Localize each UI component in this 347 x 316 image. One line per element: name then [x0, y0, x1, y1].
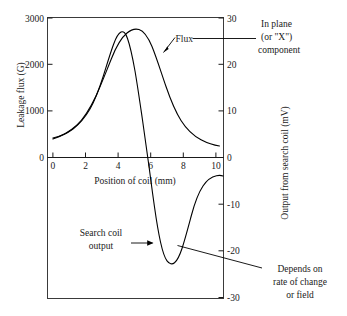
- figure-leakage-flux-search-coil: 3000 2000 1000 0 30 20 10 0 -10 -20 -30: [0, 0, 347, 316]
- chart-canvas: 3000 2000 1000 0 30 20 10 0 -10 -20 -30: [0, 0, 347, 316]
- flux-curve: [53, 29, 220, 146]
- x-axis-ticks: [53, 153, 216, 158]
- in-plane-line-2: (or "X"): [261, 32, 292, 43]
- left-axis-tick-labels: 3000 2000 1000 0: [25, 14, 44, 164]
- x-tick-10: 10: [211, 161, 221, 171]
- right-axis-ticks: [219, 18, 224, 298]
- x-tick-8: 8: [181, 161, 186, 171]
- right-tick-20: 20: [227, 60, 237, 70]
- depends-annotation: Depends on rate of change or field: [273, 264, 327, 300]
- right-axis-title: Output from search coil (mV): [280, 106, 291, 219]
- search-coil-line-1: Search coil: [80, 228, 123, 238]
- left-tick-0: 0: [39, 153, 44, 163]
- right-tick-10: 10: [227, 106, 237, 116]
- depends-line-1: Depends on: [277, 264, 322, 274]
- right-tick-minus20: -20: [227, 246, 240, 256]
- left-tick-1000: 1000: [25, 106, 44, 116]
- right-tick-minus10: -10: [227, 200, 240, 210]
- right-tick-0: 0: [227, 153, 232, 163]
- left-axis-title: Leakage flux (G): [16, 62, 27, 127]
- flux-annotation-label: Flux: [176, 34, 194, 44]
- left-tick-3000: 3000: [25, 14, 44, 24]
- x-tick-2: 2: [83, 161, 88, 171]
- search-coil-curve-positive: [53, 32, 149, 165]
- depends-line-2: rate of change: [273, 277, 327, 287]
- x-tick-0: 0: [51, 161, 56, 171]
- right-tick-30: 30: [227, 14, 237, 24]
- depends-leader-line: [178, 246, 263, 269]
- right-tick-minus30: -30: [227, 293, 240, 303]
- in-plane-line-1: In plane: [261, 19, 292, 29]
- left-axis-ticks: [48, 18, 53, 158]
- x-axis-tick-labels: 0 2 4 6 8 10: [51, 161, 221, 171]
- depends-line-3: or field: [286, 290, 314, 300]
- search-coil-line-2: output: [89, 241, 114, 251]
- x-axis-title: Position of coil (mm): [94, 176, 176, 187]
- search-coil-annotation: Search coil output: [80, 228, 123, 251]
- x-tick-4: 4: [116, 161, 121, 171]
- in-plane-annotation: In plane (or "X") component: [258, 19, 301, 55]
- in-plane-line-3: component: [258, 45, 301, 55]
- search-coil-arrow-head: [147, 240, 153, 246]
- left-tick-2000: 2000: [25, 60, 44, 70]
